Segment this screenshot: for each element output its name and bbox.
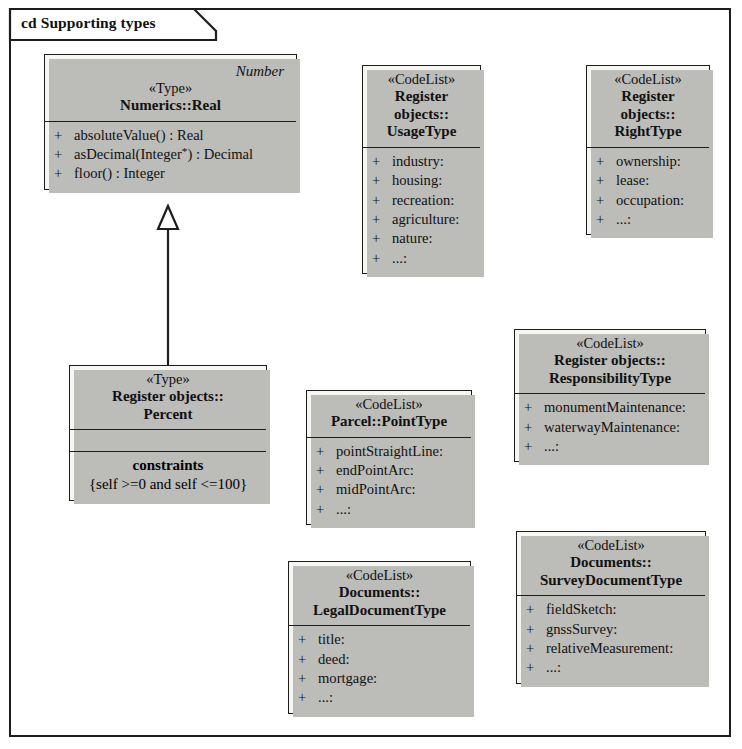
class-box-numerics-real[interactable]: Number «Type» Numerics::Real + absoluteV… [44,54,297,190]
literal-name: deed: [318,650,466,669]
literal-name: ...: [392,249,476,268]
literal-row[interactable]: + pointStraightLine: [311,442,467,461]
operation-row[interactable]: + floor() : Integer [49,164,292,183]
class-box-responsibility-type[interactable]: «CodeList» Register objects:: Responsibi… [514,329,706,462]
visibility-marker: + [367,229,392,248]
literals-compartment-legal-document-type: + title: + deed: + mortgage: + ...: [289,625,470,713]
class-header-survey-document-type: «CodeList» Documents:: SurveyDocumentTyp… [517,532,705,595]
literal-name: lease: [616,171,705,190]
class-box-percent[interactable]: «Type» Register objects:: Percent constr… [69,365,267,501]
literal-row[interactable]: + recreation: [367,191,476,210]
literals-compartment-responsibility-type: + monumentMaintenance: + waterwayMainten… [515,393,705,461]
stereotype-codelist: «CodeList» [521,537,701,554]
literal-row[interactable]: + fieldSketch: [521,600,701,619]
constraints-compartment-percent: constraints {self >=0 and self <=100} [70,451,266,500]
literal-row[interactable]: + ...: [311,500,467,519]
visibility-marker: + [367,249,392,268]
class-box-point-type[interactable]: «CodeList» Parcel::PointType + pointStra… [306,390,472,525]
literals-compartment-right-type: + ownership: + lease: + occupation: + ..… [587,147,709,235]
uml-class-diagram-frame: cd Supporting types Number «Type» Numeri… [9,8,731,737]
visibility-marker: + [311,442,336,461]
visibility-marker: + [519,437,544,456]
class-header-right-type: «CodeList» Register objects:: RightType [587,66,709,147]
stereotype-codelist: «CodeList» [591,71,705,88]
visibility-marker: + [367,210,392,229]
class-name-percent-line2: Percent [74,406,262,424]
class-header-point-type: «CodeList» Parcel::PointType [307,391,471,437]
literal-row[interactable]: + deed: [293,650,466,669]
literals-compartment-usage-type: + industry: + housing: + recreation: + a… [363,147,480,273]
literal-name: recreation: [392,191,476,210]
class-box-right-type[interactable]: «CodeList» Register objects:: RightType … [586,65,710,235]
class-header-usage-type: «CodeList» Register objects:: UsageType [363,66,480,147]
literal-row[interactable]: + title: [293,630,466,649]
literal-name: relativeMeasurement: [546,639,701,658]
stereotype-codelist: «CodeList» [311,396,467,413]
class-name-numerics-real: Numerics::Real [49,97,292,115]
stereotype-codelist: «CodeList» [367,71,476,88]
literal-row[interactable]: + waterwayMaintenance: [519,418,701,437]
literal-row[interactable]: + ownership: [591,152,705,171]
class-box-legal-document-type[interactable]: «CodeList» Documents:: LegalDocumentType… [288,561,471,714]
class-name-right-type-line1: Register [591,88,705,106]
literal-name: endPointArc: [336,461,467,480]
visibility-marker: + [293,669,318,688]
literals-compartment-point-type: + pointStraightLine: + endPointArc: + mi… [307,437,471,525]
operation-row[interactable]: + asDecimal(Integer*) : Decimal [49,145,292,164]
frame-title: cd Supporting types [21,14,156,32]
literal-row[interactable]: + ...: [519,437,701,456]
class-name-responsibility-type-line1: Register objects:: [519,352,701,370]
literal-row[interactable]: + industry: [367,152,476,171]
literal-row[interactable]: + agriculture: [367,210,476,229]
class-name-responsibility-type-line2: ResponsibilityType [519,370,701,388]
literal-row[interactable]: + mortgage: [293,669,466,688]
literal-row[interactable]: + endPointArc: [311,461,467,480]
literal-name: housing: [392,171,476,190]
literal-name: nature: [392,229,476,248]
literal-name: ...: [546,658,701,677]
visibility-marker: + [49,145,74,164]
literal-name: ...: [336,500,467,519]
literal-row[interactable]: + ...: [367,249,476,268]
literal-name: monumentMaintenance: [544,398,701,417]
literal-name: agriculture: [392,210,476,229]
class-name-legal-document-type-line2: LegalDocumentType [293,602,466,620]
class-name-point-type: Parcel::PointType [311,413,467,431]
stereotype-codelist: «CodeList» [293,567,466,584]
literal-row[interactable]: + ...: [591,210,705,229]
visibility-marker: + [591,210,616,229]
literal-name: title: [318,630,466,649]
attributes-compartment-percent [70,429,266,451]
literal-row[interactable]: + nature: [367,229,476,248]
literal-row[interactable]: + ...: [293,688,466,707]
class-header-percent: «Type» Register objects:: Percent [70,366,266,429]
visibility-marker: + [311,480,336,499]
literal-name: ...: [544,437,701,456]
class-name-usage-type-line2: objects:: [367,106,476,124]
literal-name: gnssSurvey: [546,620,701,639]
visibility-marker: + [367,171,392,190]
literal-row[interactable]: + housing: [367,171,476,190]
visibility-marker: + [293,688,318,707]
stereotype-codelist: «CodeList» [519,335,701,352]
literal-row[interactable]: + midPointArc: [311,480,467,499]
literal-row[interactable]: + monumentMaintenance: [519,398,701,417]
class-name-right-type-line2: objects:: [591,106,705,124]
literal-row[interactable]: + lease: [591,171,705,190]
literal-row[interactable]: + ...: [521,658,701,677]
literal-row[interactable]: + occupation: [591,191,705,210]
literal-name: ...: [616,210,705,229]
role-label-number: Number [49,60,292,80]
stereotype-type: «Type» [49,80,292,97]
literal-row[interactable]: + relativeMeasurement: [521,639,701,658]
visibility-marker: + [311,500,336,519]
class-name-usage-type-line3: UsageType [367,123,476,141]
class-box-usage-type[interactable]: «CodeList» Register objects:: UsageType … [362,65,481,274]
operation-row[interactable]: + absoluteValue() : Real [49,126,292,145]
class-box-survey-document-type[interactable]: «CodeList» Documents:: SurveyDocumentTyp… [516,531,706,684]
visibility-marker: + [293,650,318,669]
class-header-legal-document-type: «CodeList» Documents:: LegalDocumentType [289,562,470,625]
literal-row[interactable]: + gnssSurvey: [521,620,701,639]
visibility-marker: + [591,191,616,210]
visibility-marker: + [521,620,546,639]
